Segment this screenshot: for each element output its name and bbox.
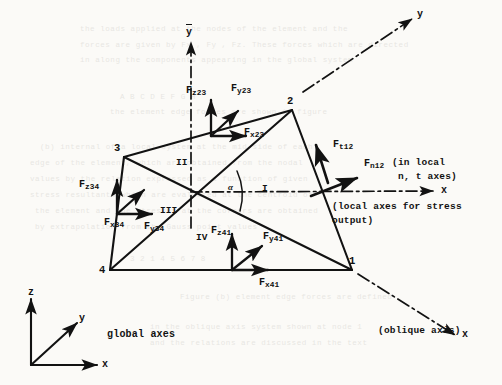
subregion-label-IV: IV [196, 233, 207, 243]
alpha-angle-label: α [228, 183, 233, 192]
node-label-3: 3 [114, 143, 120, 154]
local-axes-note-line1: (local axes for stress [332, 202, 462, 212]
oblique-y-axis-label: y [417, 10, 423, 20]
force-label-Fx34: Fx34 [104, 218, 124, 230]
force-label-Fy41: Fy41 [263, 232, 283, 244]
ybar-glyph: y [186, 27, 192, 38]
force-subscript-edge: 34 [90, 183, 99, 191]
in-local-note-line1: (in local [392, 158, 445, 168]
force-label-Ft12: Ft12 [333, 140, 353, 152]
force-arrows-edge-23 [211, 100, 246, 136]
global-axes-caption: global axes [107, 330, 175, 340]
node-label-4: 4 [99, 265, 105, 276]
subregion-label-II: II [176, 158, 187, 168]
force-subscript-edge: 41 [222, 229, 231, 237]
force-label-Fn12: Fn12 [364, 159, 384, 171]
force-subscript-edge: 23 [242, 87, 251, 95]
subregion-label-III: III [160, 206, 177, 216]
force-subscript-edge: 34 [115, 221, 124, 229]
force-subscript-edge: 41 [270, 281, 279, 289]
force-label-Fz23: Fz23 [186, 86, 206, 98]
force-label-Fy34: Fy34 [144, 222, 164, 234]
ybar-axis-label: y [186, 28, 192, 38]
force-label-Fx41: Fx41 [259, 278, 279, 290]
oblique-x-axis-label: x [462, 330, 468, 340]
in-local-note-line2: n, t axes) [398, 172, 457, 182]
force-subscript-edge: 12 [344, 143, 353, 151]
oblique-axis-note: (oblique axis) [378, 326, 461, 336]
force-label-Fz41: Fz41 [211, 226, 231, 238]
force-subscript-edge: 23 [197, 89, 206, 97]
force-label-Fy23: Fy23 [231, 84, 251, 96]
force-arrows-edge-34 [117, 180, 152, 214]
force-subscript-edge: 34 [155, 225, 164, 233]
local-axes-note-line2: output) [332, 216, 373, 226]
node-label-1: 1 [349, 256, 355, 267]
force-subscript-edge: 41 [274, 235, 283, 243]
force-arrows-edge-12 [311, 145, 357, 196]
global-x-axis-label: x [102, 360, 108, 370]
force-label-Fz34: Fz34 [79, 180, 99, 192]
force-label-Fx23: Fx23 [244, 128, 264, 140]
global-z-axis-label: z [28, 288, 34, 298]
local-x-axis-label: x [441, 186, 447, 196]
global-y-axis-label: y [79, 314, 85, 324]
subregion-label-I: I [262, 184, 268, 194]
force-subscript-edge: 23 [255, 131, 264, 139]
global-axes-triad [31, 299, 97, 365]
node-label-2: 2 [287, 96, 293, 107]
force-subscript-edge: 12 [375, 162, 384, 170]
figure-page: the loads applied at the nodes of the el… [0, 0, 502, 385]
